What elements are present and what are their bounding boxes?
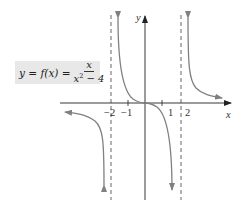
curve-left-branch (65, 112, 104, 185)
function-formula: y = f(x) = x x2 − 4 (15, 61, 100, 84)
formula-denominator: x2 − 4 (74, 72, 105, 84)
curve-right-branch (188, 18, 222, 98)
function-graph: y = f(x) = x x2 − 4 y x −2 −1 1 2 (0, 0, 243, 203)
y-axis-label: y (136, 13, 141, 24)
tick-label-neg1: −1 (121, 108, 132, 119)
x-axis-label: x (226, 110, 231, 121)
formula-lhs: y = f(x) = (19, 67, 71, 79)
formula-numerator: x (84, 60, 94, 72)
tick-label-pos2: 2 (185, 108, 190, 119)
tick-label-pos1: 1 (168, 108, 173, 119)
tick-label-neg2: −2 (104, 108, 115, 119)
formula-fraction: x x2 − 4 (74, 60, 105, 84)
graph-svg (0, 0, 243, 203)
denominator-rest: − 4 (83, 74, 104, 85)
